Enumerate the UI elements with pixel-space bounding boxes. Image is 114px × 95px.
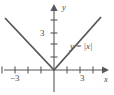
x-axis-arrowhead xyxy=(102,66,109,73)
x-axis-label: x xyxy=(104,75,108,84)
equation-rhs: |x| xyxy=(84,41,93,51)
equation-annotation: y = |x| xyxy=(70,42,93,51)
y-axis-arrowhead xyxy=(50,4,57,11)
y-axis-tick-label-three: 3 xyxy=(40,29,45,38)
x-axis-tick-label-minus-three: −3 xyxy=(10,74,20,83)
x-axis-tick-label-three: 3 xyxy=(80,74,85,83)
y-axis-label: y xyxy=(62,3,66,12)
absolute-value-graph-figure: −3 3 3 y x y = |x| xyxy=(0,0,114,95)
